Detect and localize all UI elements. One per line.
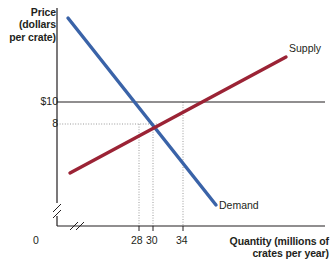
x-axis-title-line-1: Quantity (millions of: [230, 235, 329, 247]
y-axis-title: Price(dollarsper crate): [9, 6, 56, 43]
demand-curve-label: Demand: [219, 199, 259, 211]
ytick-label-8: 8: [26, 117, 58, 129]
y-axis-title-line-1: Price: [31, 6, 56, 18]
supply-curve-label: Supply: [289, 42, 321, 54]
ytick-label-10: $10: [26, 95, 58, 107]
x-axis-title: Quantity (millions ofcrates per year): [196, 235, 329, 260]
xtick-label-30: 30: [146, 234, 158, 246]
xtick-label-34: 34: [176, 234, 188, 246]
supply-demand-chart: Price(dollarsper crate) Quantity (millio…: [0, 0, 331, 264]
demand-curve: [68, 18, 216, 205]
x-axis-title-line-2: crates per year): [252, 247, 329, 259]
y-axis-title-line-3: per crate): [9, 31, 56, 43]
y-axis-title-line-2: (dollars: [19, 18, 56, 30]
xtick-label-0: 0: [33, 234, 39, 246]
xtick-label-28: 28: [131, 234, 143, 246]
